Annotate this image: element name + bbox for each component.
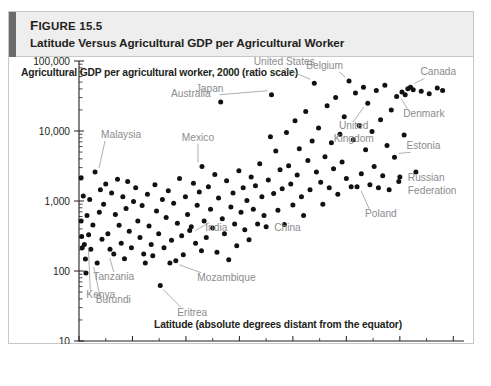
data-point	[158, 283, 163, 288]
annotation-leader-line	[339, 72, 345, 77]
data-point	[244, 198, 249, 203]
data-point	[374, 88, 379, 93]
data-point	[167, 261, 172, 266]
data-point	[79, 218, 84, 223]
data-point	[310, 138, 315, 143]
data-point	[262, 213, 267, 218]
y-tick-label: 100,000	[33, 57, 70, 67]
data-point	[154, 208, 159, 213]
data-point	[363, 147, 368, 152]
data-point	[427, 91, 432, 96]
data-point	[241, 185, 246, 190]
data-point	[173, 258, 178, 263]
data-point	[331, 166, 336, 171]
data-point	[105, 231, 110, 236]
country-label: Federation	[408, 185, 457, 196]
data-point	[290, 202, 295, 207]
data-point	[109, 191, 114, 196]
data-point	[320, 202, 325, 207]
data-point	[278, 167, 283, 172]
data-point	[133, 185, 138, 190]
data-point	[365, 101, 370, 106]
data-point	[286, 163, 291, 168]
country-label: United	[339, 120, 369, 131]
data-point	[81, 193, 86, 198]
figure-header: FIGURE 15.5 Latitude Versus Agricultural…	[9, 12, 473, 57]
data-point	[271, 191, 276, 196]
data-point	[150, 253, 155, 258]
data-point	[316, 126, 321, 131]
data-point	[242, 227, 247, 232]
data-point	[143, 261, 148, 266]
data-point	[327, 185, 332, 190]
country-label: Belgium	[306, 60, 343, 71]
annotation-leader-line	[220, 91, 268, 95]
data-point	[152, 182, 157, 187]
data-point	[347, 78, 352, 83]
country-label: Kingdom	[334, 133, 374, 144]
data-point	[127, 229, 132, 234]
data-point	[349, 184, 354, 189]
data-point	[385, 143, 390, 148]
data-point	[411, 87, 416, 92]
country-label: Mexico	[182, 132, 215, 143]
data-point	[103, 181, 108, 186]
data-point	[382, 83, 387, 88]
figure-number-word: IGURE	[38, 20, 75, 32]
data-point	[293, 118, 298, 123]
country-label: Malaysia	[101, 129, 142, 140]
data-point	[440, 88, 445, 93]
data-point	[175, 221, 180, 226]
country-label: Mozambique	[197, 272, 256, 283]
data-point	[372, 164, 377, 169]
data-point	[342, 114, 347, 119]
data-point	[224, 178, 229, 183]
data-point	[87, 197, 92, 202]
data-point	[322, 154, 327, 159]
data-point	[166, 188, 171, 193]
data-point	[259, 194, 264, 199]
data-point	[333, 95, 338, 100]
y-tick-label: 10,000	[39, 126, 70, 137]
data-point	[402, 132, 407, 137]
data-point	[234, 243, 239, 248]
data-point	[98, 187, 103, 192]
country-label: Denmark	[403, 108, 445, 119]
annotation-leader-line	[361, 191, 369, 209]
data-point	[266, 177, 271, 182]
data-point	[220, 216, 225, 221]
y-tick-label: 100	[53, 266, 70, 277]
data-point	[189, 224, 194, 229]
data-point	[122, 256, 127, 261]
data-point	[396, 179, 401, 184]
data-point	[101, 202, 106, 207]
data-point	[314, 169, 319, 174]
data-point	[79, 175, 84, 180]
country-label: Russian	[408, 172, 445, 183]
data-point	[108, 247, 113, 252]
data-point	[228, 205, 233, 210]
data-point	[325, 103, 330, 108]
data-point	[236, 168, 241, 173]
data-point	[255, 221, 260, 226]
annotation-leader-line	[110, 258, 114, 272]
data-point	[137, 235, 142, 240]
data-point	[367, 182, 372, 187]
data-point	[251, 207, 256, 212]
data-point	[295, 173, 300, 178]
data-point	[93, 169, 98, 174]
country-label: Eritrea	[177, 307, 207, 318]
data-point	[204, 235, 209, 240]
data-point	[88, 247, 93, 252]
data-point	[299, 194, 304, 199]
data-point	[226, 257, 231, 262]
data-point	[361, 85, 366, 90]
data-point	[216, 196, 221, 201]
country-label: Estonia	[406, 140, 440, 151]
data-point	[397, 175, 402, 180]
country-label: Tanzania	[93, 271, 134, 282]
data-point	[344, 176, 349, 181]
data-point	[387, 187, 392, 192]
annotation-leader-line	[354, 107, 364, 121]
data-point	[169, 238, 174, 243]
